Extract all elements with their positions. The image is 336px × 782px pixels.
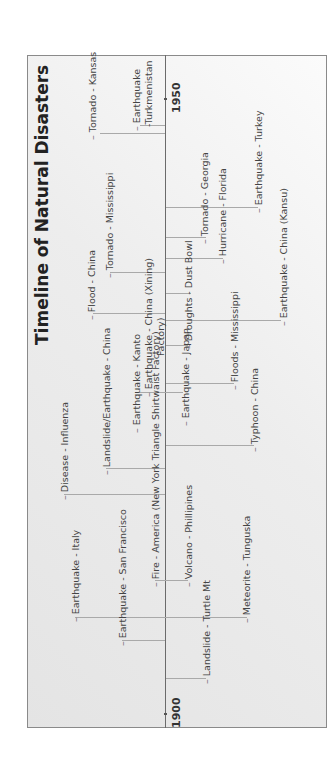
event-landslide-china: Landslide/Earthquake - China	[101, 328, 112, 475]
event-hurricane-florida: Hurricane - Florida	[217, 168, 228, 264]
connector-turkey	[166, 207, 258, 208]
event-earthquake-san-francisco: Earthquake - San Francisco	[117, 509, 128, 646]
event-earthquake-japan: Earthquake - Japan	[180, 328, 191, 426]
event-earthquake-kanto: Earthquake - Kanto	[131, 334, 142, 433]
event-tornado-georgia: Tornado - Georgia	[199, 152, 210, 244]
event-tornado-mississippi: Tornado - Mississippi	[104, 173, 115, 278]
tick-1950	[164, 98, 167, 100]
connector-turtle	[166, 678, 206, 679]
connector-tornado-miss	[110, 272, 165, 273]
event-typhoon-china: Typhoon - China	[249, 368, 260, 452]
year-label-1900: 1900	[170, 697, 183, 728]
chart-title: Timeline of Natural Disasters	[32, 65, 52, 345]
connector-hurricane	[166, 258, 223, 259]
connector-typhoon	[166, 445, 254, 446]
connector-tornado-kansas	[100, 133, 165, 134]
event-flood-china: Flood - China	[86, 250, 97, 320]
event-earthquake-kansu: Earthquake - China (Kansu)	[278, 188, 289, 326]
event-disease-influenza: Disease - Influenza	[59, 402, 70, 500]
connector-sanfran	[122, 640, 165, 641]
tick-1900	[164, 713, 167, 715]
event-meteorite-tunguska: Meteorite - Tunguska	[241, 516, 252, 623]
event-turkmenistan-1: Earthquake	[131, 69, 142, 131]
event-earthquake-turkey: Earthquake - Turkey	[253, 110, 264, 213]
connector-italy-tunguska	[75, 617, 247, 618]
event-turkmenistan-2: -Turkmenistan	[143, 60, 154, 127]
connector-floods-miss	[166, 383, 234, 384]
event-earthquake-italy: Earthquake - Italy	[70, 530, 81, 622]
connector-flood-china	[93, 313, 165, 314]
event-floods-mississippi: Floods - Mississippi	[229, 291, 240, 390]
event-fire-america: Fire - America (New York Triangle Shirtw…	[150, 331, 161, 587]
year-label-1950: 1950	[170, 82, 183, 113]
event-volcano-phillipines: Volcano - Phillipines	[183, 485, 194, 587]
event-landslide-turtle-mt: Landslide - Turtle Mt	[201, 580, 212, 684]
event-tornado-kansas: Tornado - Kansas	[87, 52, 98, 140]
